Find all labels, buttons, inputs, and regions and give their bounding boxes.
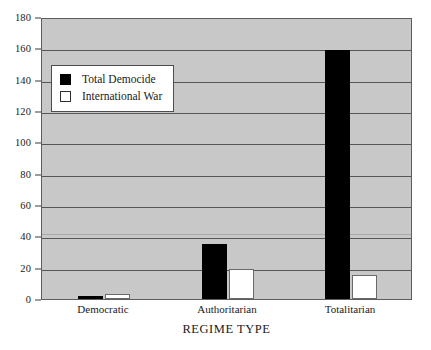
bar [352, 275, 377, 299]
bar [105, 294, 130, 299]
y-axis: 020406080100120140160180 [0, 0, 41, 350]
gridline [42, 113, 411, 114]
bar [78, 296, 103, 299]
plot-area [41, 18, 412, 300]
gridline [42, 176, 411, 177]
bar [229, 269, 254, 299]
legend-item-total-democide: Total Democide [60, 71, 162, 88]
y-axis-tick-label: 60 [20, 201, 31, 212]
white-square-swatch [60, 91, 71, 102]
gridline-faint [42, 234, 411, 235]
bar [325, 50, 350, 299]
x-axis: DemocraticAuthoritarianTotalitarian [41, 303, 412, 323]
gridline [42, 207, 411, 208]
x-axis-tick-label: Totalitarian [325, 303, 376, 315]
legend-item-label: International War [82, 91, 162, 103]
gridline [42, 144, 411, 145]
x-axis-tick-label: Democratic [77, 303, 128, 315]
y-axis-tick-label: 100 [15, 138, 31, 149]
legend-item-international-war: International War [60, 88, 162, 105]
bar-chart: 020406080100120140160180 Total Democide … [0, 0, 431, 350]
black-square-swatch [60, 74, 71, 85]
gridline [42, 50, 411, 51]
y-axis-tick-label: 0 [26, 295, 31, 306]
y-axis-tick-label: 160 [15, 44, 31, 55]
y-axis-tick-label: 120 [15, 107, 31, 118]
y-axis-tick-label: 40 [20, 232, 31, 243]
legend-item-label: Total Democide [82, 74, 156, 86]
x-axis-title: REGIME TYPE [41, 322, 412, 337]
x-axis-tick-label: Authoritarian [197, 303, 256, 315]
gridline [42, 238, 411, 239]
y-axis-tick-label: 140 [15, 75, 31, 86]
y-axis-tick-label: 20 [20, 263, 31, 274]
y-axis-tick-label: 80 [20, 169, 31, 180]
chart-legend: Total Democide International War [51, 65, 174, 112]
bar [202, 244, 227, 299]
y-axis-tick-label: 180 [15, 13, 31, 24]
